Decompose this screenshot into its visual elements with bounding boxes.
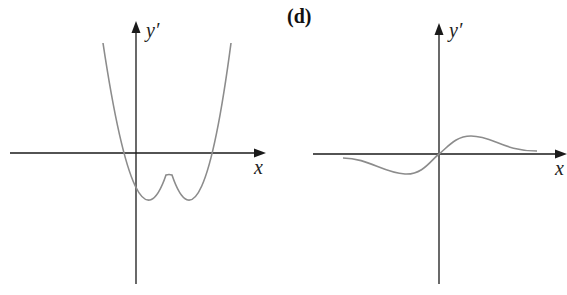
right-graph-panel: (d) y′ x [283,0,567,295]
left-graph-svg [0,0,283,295]
left-graph-panel: y′ x [0,0,283,295]
x-axis-label: x [254,157,263,177]
y-axis-label: y′ [449,20,462,40]
derivative-curve [343,136,537,174]
y-axis-arrow-icon [132,21,141,33]
right-graph-svg [283,0,567,295]
x-axis-label: x [555,158,564,178]
y-axis-arrow-icon [435,23,444,35]
parabola-curve [103,43,231,200]
y-axis-label: y′ [146,20,159,40]
